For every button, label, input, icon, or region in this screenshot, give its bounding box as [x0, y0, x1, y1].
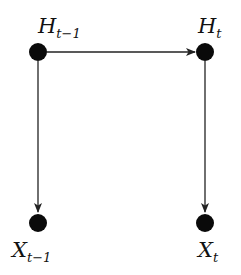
diagram-canvas: Ht−1 Ht Xt−1 Xt: [0, 0, 241, 275]
node-x-prev: [29, 214, 47, 232]
node-x-curr: [196, 214, 214, 232]
label-x-curr: Xt: [196, 238, 219, 265]
node-h-prev: [29, 43, 47, 61]
node-h-curr: [196, 43, 214, 61]
label-x-prev: Xt−1: [10, 238, 51, 265]
label-h-prev: Ht−1: [37, 14, 81, 41]
label-h-curr: Ht: [197, 14, 222, 41]
